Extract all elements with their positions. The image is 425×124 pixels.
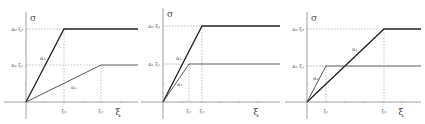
y-tick-label-upper: α₂ ξ₂ [148,23,160,30]
x-tick-label-right: ξ₂ [200,108,205,115]
x-tick-label-left: ξ₁ [187,108,192,115]
panel-2: σα₂ ξ₂α₁ ξ₁ξ₁ξ₂ξα₂α₁ [141,8,280,119]
y-tick-label-lower: α₁ ξ₁ [148,61,160,68]
y-tick-label-upper: α₂ ξ₂ [11,26,23,33]
panel-1: σα₂ ξ₂α₁ ξ₁ξ₂ξ₁ξα₂α₁ [4,12,138,119]
curve-label: α₁ [177,81,182,87]
curve-upper [307,29,421,102]
y-axis-label: σ [311,13,317,23]
y-tick-label-upper: α₂ ξ₂ [292,26,304,33]
curve-lower [307,66,421,102]
curve-label: α₂ [40,55,45,61]
x-tick-label-right: ξ₁ [99,108,104,115]
panel-3: σα₂ ξ₂α₁ ξ₁ξ₁ξ₂ξα₁α₂ [285,12,421,119]
x-axis-label: ξ [253,106,259,117]
y-tick-label-lower: α₁ ξ₁ [292,63,304,70]
figure: σα₂ ξ₂α₁ ξ₁ξ₂ξ₁ξα₂α₁σα₂ ξ₂α₁ ξ₁ξ₁ξ₂ξα₂α₁… [0,0,425,124]
curve-label: α₂ [313,75,318,81]
x-tick-label-right: ξ₂ [382,108,387,115]
x-tick-label-left: ξ₂ [62,108,67,115]
curve-label: α₁ [352,46,357,52]
x-tick-label-left: ξ₁ [324,108,329,115]
x-axis-label: ξ [115,106,121,117]
x-axis-label: ξ [398,106,404,117]
curve-upper [26,29,138,102]
curve-label: α₂ [176,55,181,61]
y-axis-label: σ [30,13,36,23]
curve-label: α₁ [71,84,76,90]
y-axis-label: σ [167,9,173,19]
y-tick-label-lower: α₁ ξ₁ [11,62,23,69]
